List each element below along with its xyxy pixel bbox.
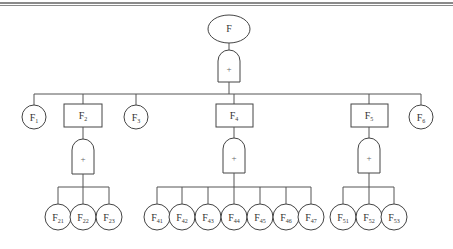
event-f53-label: F53 [388, 213, 400, 224]
label-sub: 4 [235, 116, 238, 122]
label-sub: 3 [137, 118, 140, 124]
event-f4-label: F4 [230, 111, 239, 122]
event-f43-label: F43 [202, 213, 214, 224]
label-sub: 43 [208, 218, 214, 224]
event-f21-label: F21 [52, 213, 64, 224]
event-f5-label: F5 [365, 111, 374, 122]
event-f41-label: F41 [151, 213, 163, 224]
or-gate-f4-symbol: + [231, 154, 236, 163]
or-gate-f2-symbol: + [80, 155, 85, 164]
label-sub: 46 [286, 218, 292, 224]
label-sub: 2 [84, 116, 87, 122]
event-f3-label: F3 [132, 113, 141, 124]
label-sub: 41 [157, 218, 163, 224]
label-sub: 51 [343, 218, 349, 224]
top-event-label: F [226, 24, 232, 34]
label-sub: 52 [369, 218, 375, 224]
event-f1-label: F1 [30, 113, 39, 124]
event-f2-label: F2 [79, 111, 88, 122]
or-gate-top-symbol: + [226, 65, 231, 74]
event-f51-label: F51 [337, 213, 349, 224]
label-sub: 42 [182, 218, 188, 224]
label-sub: 44 [234, 218, 240, 224]
label-sub: 53 [394, 218, 400, 224]
label-sub: 21 [58, 218, 64, 224]
event-f23-label: F23 [103, 213, 115, 224]
label-sub: 5 [370, 116, 373, 122]
label-sub: 47 [311, 218, 317, 224]
fault-tree-diagram [0, 0, 453, 249]
label-sub: 45 [260, 218, 266, 224]
label-sub: 22 [83, 218, 89, 224]
event-f45-label: F45 [254, 213, 266, 224]
event-f47-label: F47 [305, 213, 317, 224]
event-f44-label: F44 [228, 213, 240, 224]
or-gate-f5-symbol: + [366, 154, 371, 163]
event-f22-label: F22 [77, 213, 89, 224]
label-sub: 6 [422, 118, 425, 124]
event-f52-label: F52 [363, 213, 375, 224]
label-sub: 23 [109, 218, 115, 224]
event-f42-label: F42 [176, 213, 188, 224]
event-f46-label: F46 [280, 213, 292, 224]
label-sub: 1 [35, 118, 38, 124]
event-f6-label: F6 [417, 113, 426, 124]
